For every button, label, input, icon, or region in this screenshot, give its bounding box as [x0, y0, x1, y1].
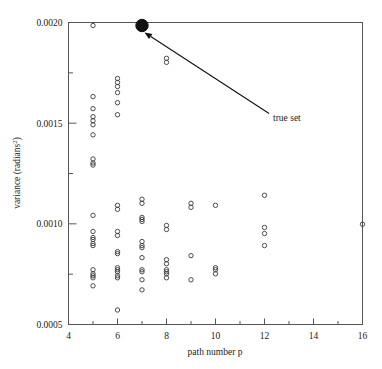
x-tick-label: 14 [309, 331, 319, 341]
x-tick-label: 6 [115, 331, 120, 341]
data-point [91, 229, 95, 233]
y-axis-tick-labels: 0.00050.00100.00150.0020 [36, 18, 62, 330]
true-set-marker [136, 19, 148, 31]
data-point [91, 284, 95, 288]
plot-svg: 46810121416 0.00050.00100.00150.0020 tru… [0, 0, 382, 369]
data-point [115, 308, 119, 312]
x-tick-label: 16 [358, 331, 368, 341]
annotation-label: true set [273, 113, 301, 123]
data-point-true-set [136, 19, 148, 31]
data-point [262, 231, 266, 235]
x-tick-label: 12 [260, 331, 270, 341]
y-tick-label: 0.0015 [36, 119, 62, 129]
data-point [189, 278, 193, 282]
data-point [262, 243, 266, 247]
data-points-open-circles [91, 23, 365, 312]
annotation-arrow-group: true set [144, 32, 301, 123]
data-point [140, 255, 144, 259]
data-point [262, 225, 266, 229]
x-tick-label: 10 [211, 331, 221, 341]
y-tick-label: 0.0005 [36, 320, 62, 330]
data-point [115, 113, 119, 117]
x-axis-tick-labels: 46810121416 [66, 331, 367, 341]
x-axis-ticks [69, 319, 363, 325]
x-tick-label: 8 [164, 331, 169, 341]
y-axis-title-base: variance (radians [12, 143, 23, 208]
data-point [262, 193, 266, 197]
plot-frame [69, 23, 363, 325]
annotation-leader-line [151, 37, 269, 114]
data-point [91, 94, 95, 98]
y-axis-ticks [69, 23, 77, 325]
x-tick-label: 4 [66, 331, 71, 341]
y-axis-title-group: variance (radians2) [11, 137, 23, 209]
data-point [91, 213, 95, 217]
data-point [91, 133, 95, 137]
annotation-arrow-head [144, 32, 152, 39]
data-point [115, 90, 119, 94]
data-point [91, 106, 95, 110]
scatter-plot-figure: 46810121416 0.00050.00100.00150.0020 tru… [0, 0, 382, 369]
data-point [213, 203, 217, 207]
data-point [91, 23, 95, 27]
data-point [140, 288, 144, 292]
data-point [115, 100, 119, 104]
y-tick-label: 0.0020 [36, 18, 62, 28]
y-tick-label: 0.0010 [36, 219, 62, 229]
y-axis-title: variance (radians2) [11, 137, 23, 209]
x-axis-title: path number p [188, 347, 243, 357]
data-point [189, 253, 193, 257]
data-point [140, 278, 144, 282]
y-axis-title-tail: ) [12, 137, 23, 140]
